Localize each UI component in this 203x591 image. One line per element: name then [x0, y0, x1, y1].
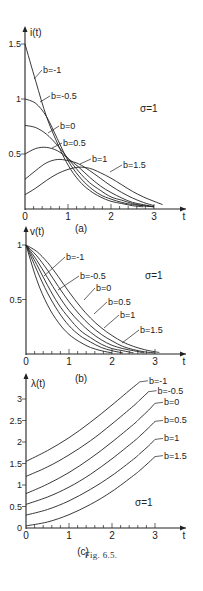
label-leader — [58, 276, 79, 290]
y-tick-label: 1.5 — [9, 459, 22, 469]
series-label: b=1.5 — [123, 160, 146, 170]
panel-label: (b) — [75, 373, 87, 384]
y-tick-label: 2 — [17, 437, 22, 447]
label-leader — [44, 257, 65, 276]
label-leader — [155, 420, 163, 421]
series-label: b=1 — [120, 310, 135, 320]
series-label: b=-0.5 — [80, 271, 106, 281]
series-label: b=-1 — [66, 252, 84, 262]
series-label: b=1.5 — [140, 325, 163, 335]
y-axis-label: λ(t) — [31, 378, 45, 389]
x-tick-label: 0 — [23, 356, 29, 367]
x-tick-label: 2 — [109, 356, 115, 367]
label-leader — [149, 391, 157, 392]
y-axis-label: v(t) — [30, 226, 44, 237]
y-tick-label: 1 — [16, 94, 21, 104]
series-label: b=0 — [60, 121, 75, 131]
series-line-b1p5 — [26, 457, 155, 526]
series-label: b=1 — [92, 154, 107, 164]
series-line-b0p5 — [26, 421, 155, 504]
series-label: b=0.5 — [63, 138, 86, 148]
y-tick-label: 0.5 — [9, 295, 22, 305]
label-leader — [84, 288, 95, 300]
y-axis-label: i(t) — [30, 27, 42, 38]
label-leader — [140, 381, 148, 382]
label-leader — [94, 302, 107, 314]
panel-b-voltage: 0123t0.51v(t)b=-1b=-0.5b=0b=0.5b=1b=1.5σ… — [9, 226, 186, 384]
x-axis-label: t — [183, 211, 186, 222]
sigma-annotation: σ=1 — [145, 270, 163, 281]
label-leader — [110, 165, 122, 172]
series-label: b=1 — [164, 433, 179, 443]
series-line-b-0p5 — [26, 392, 149, 477]
x-tick-label: 0 — [23, 530, 29, 541]
series-line-b1 — [26, 245, 155, 353]
label-leader — [155, 438, 163, 439]
x-tick-label: 1 — [66, 356, 72, 367]
figure: 0123t0.511.5i(t)b=-1b=-0.5b=0b=0.5b=1b=1… — [0, 0, 203, 591]
panel-c-rate: 0123t00.511.522.53λ(t)b=-1b=-0.5b=0b=0.5… — [9, 373, 186, 557]
sigma-annotation: σ=1 — [140, 103, 158, 114]
y-axis-arrow — [24, 373, 29, 379]
x-tick-label: 3 — [152, 356, 158, 367]
x-tick-label: 2 — [109, 530, 115, 541]
series-label: b=-0.5 — [51, 91, 77, 101]
x-tick-label: 1 — [65, 211, 71, 222]
panel-label: (a) — [75, 223, 87, 234]
series-label: b=-0.5 — [158, 386, 184, 396]
series-line-b0p5 — [25, 147, 154, 207]
label-leader — [48, 126, 59, 133]
y-axis-arrow — [23, 26, 28, 32]
x-tick-label: 1 — [66, 530, 72, 541]
x-axis-label: t — [183, 530, 186, 541]
label-leader — [80, 159, 91, 164]
series-label: b=0 — [96, 283, 111, 293]
y-axis-arrow — [24, 226, 29, 232]
y-tick-label: 0.5 — [9, 502, 22, 512]
series-label: b=0 — [164, 397, 179, 407]
y-tick-label: 3 — [17, 394, 22, 404]
series-label: b=-1 — [43, 65, 61, 75]
x-axis-label: t — [183, 356, 186, 367]
y-tick-label: 1 — [17, 240, 22, 250]
label-leader — [40, 96, 50, 102]
x-tick-label: 3 — [152, 530, 158, 541]
label-leader — [155, 402, 163, 403]
series-label: b=0.5 — [164, 415, 187, 425]
series-line-b-1 — [26, 382, 140, 462]
label-leader — [104, 315, 119, 328]
y-tick-label: 2.5 — [9, 416, 22, 426]
series-line-b0 — [26, 403, 155, 493]
sigma-annotation: σ=1 — [135, 497, 153, 508]
x-tick-label: 3 — [151, 211, 157, 222]
label-leader — [155, 456, 163, 457]
x-tick-label: 0 — [22, 211, 28, 222]
series-label: b=0.5 — [108, 297, 131, 307]
y-tick-label: 0 — [17, 523, 22, 533]
label-leader — [34, 70, 42, 79]
y-tick-label: 1.5 — [8, 39, 21, 49]
series-line-b1p5 — [26, 245, 159, 352]
panel-a-current: 0123t0.511.5i(t)b=-1b=-0.5b=0b=0.5b=1b=1… — [8, 26, 186, 234]
label-leader — [122, 330, 139, 343]
y-tick-label: 0.5 — [8, 149, 21, 159]
y-tick-label: 1 — [17, 480, 22, 490]
series-label: b=1.5 — [164, 451, 187, 461]
series-label: b=-1 — [149, 376, 167, 386]
x-tick-label: 2 — [108, 211, 114, 222]
figure-caption: Fig. 6.5. — [85, 550, 118, 560]
